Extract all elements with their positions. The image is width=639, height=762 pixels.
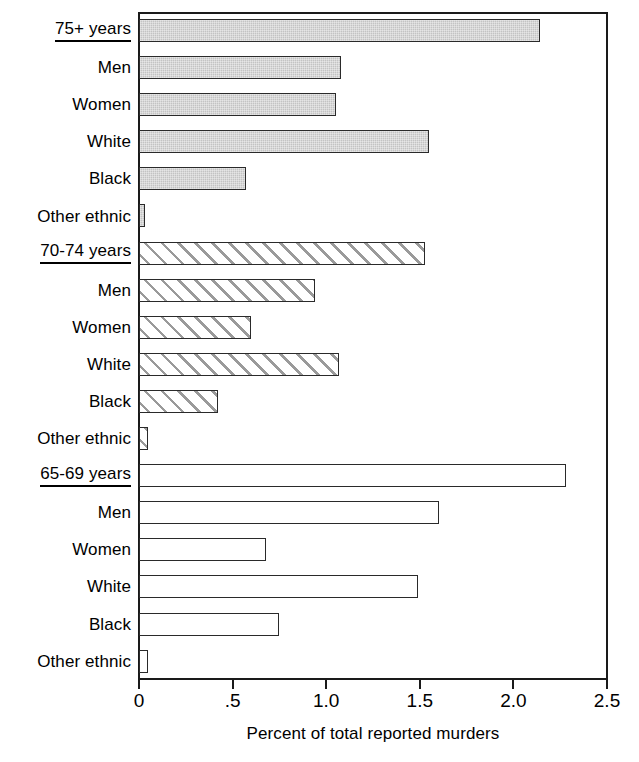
bar	[139, 19, 540, 42]
bar	[139, 167, 246, 190]
bar-label: Black	[0, 616, 131, 633]
bar	[139, 56, 341, 79]
x-tick-label: 2.5	[594, 691, 620, 710]
bar-label: Men	[0, 282, 131, 299]
bar	[139, 390, 218, 413]
bar	[139, 650, 148, 673]
bar	[139, 130, 429, 153]
x-tick	[232, 680, 234, 689]
x-tick	[419, 680, 421, 689]
bar-label: Black	[0, 170, 131, 187]
bar-row: Other ethnic	[0, 420, 639, 457]
x-tick-label: 1.5	[407, 691, 433, 710]
bar-label: Women	[0, 319, 131, 336]
bar-label: Men	[0, 504, 131, 521]
bar-row: White	[0, 123, 639, 160]
bar-row: Women	[0, 309, 639, 346]
group-label: 75+ years	[55, 20, 131, 42]
bar	[139, 353, 339, 376]
x-tick	[138, 680, 140, 689]
bar	[139, 575, 418, 598]
bar-label: Women	[0, 96, 131, 113]
x-tick-label: .5	[225, 691, 241, 710]
bar	[139, 427, 148, 450]
x-tick	[512, 680, 514, 689]
bar-row: Black	[0, 606, 639, 643]
bar-row: Other ethnic	[0, 643, 639, 680]
bar	[139, 501, 439, 524]
group-label: 65-69 years	[40, 465, 131, 487]
bar-row: 75+ years	[0, 12, 639, 49]
x-tick	[606, 680, 608, 689]
bar-rows: 75+ yearsMenWomenWhiteBlackOther ethnic7…	[0, 12, 639, 680]
x-axis-label: Percent of total reported murders	[138, 725, 608, 742]
bar	[139, 242, 425, 265]
bar-row: Men	[0, 494, 639, 531]
bar-label: White	[0, 356, 131, 373]
bar-row: Black	[0, 383, 639, 420]
bar-label: White	[0, 578, 131, 595]
bar	[139, 316, 251, 339]
bar	[139, 538, 266, 561]
bar	[139, 613, 279, 636]
bar-row: Men	[0, 272, 639, 309]
bar-label: Women	[0, 541, 131, 558]
bar	[139, 204, 145, 227]
x-tick	[325, 680, 327, 689]
bar	[139, 279, 315, 302]
bar-row: 65-69 years	[0, 457, 639, 494]
bar-row: Women	[0, 86, 639, 123]
bar-chart: 75+ yearsMenWomenWhiteBlackOther ethnic7…	[0, 0, 639, 762]
bar-row: Black	[0, 160, 639, 197]
bar-label: Other ethnic	[0, 430, 131, 447]
group-label: 70-74 years	[40, 242, 131, 264]
bar-label: Other ethnic	[0, 208, 131, 225]
bar	[139, 464, 566, 487]
bar-label: Men	[0, 59, 131, 76]
x-tick-label: 2.0	[500, 691, 526, 710]
x-tick-label: 1.0	[313, 691, 339, 710]
bar-row: Other ethnic	[0, 197, 639, 234]
bar-row: Men	[0, 49, 639, 86]
bar-label: White	[0, 133, 131, 150]
bar	[139, 93, 336, 116]
bar-row: 70-74 years	[0, 235, 639, 272]
bar-label: Other ethnic	[0, 653, 131, 670]
bar-row: White	[0, 568, 639, 605]
bar-label: Black	[0, 393, 131, 410]
x-tick-label: 0	[134, 691, 145, 710]
x-axis: Percent of total reported murders 0.51.0…	[138, 680, 608, 762]
bar-row: White	[0, 346, 639, 383]
bar-row: Women	[0, 531, 639, 568]
